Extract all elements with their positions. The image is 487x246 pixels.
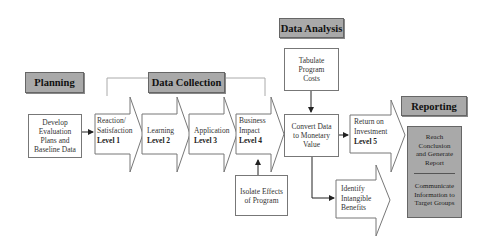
- text-line: Isolate Effects: [240, 187, 283, 196]
- text-line: and Generate: [416, 150, 453, 159]
- tabulate-costs-box: Tabulate Program Costs: [284, 48, 339, 91]
- text-line: Reaction/: [97, 116, 132, 126]
- text-line: Identify: [341, 184, 371, 194]
- text-line: Report: [425, 159, 444, 168]
- text-line: Application: [194, 126, 229, 136]
- reach-conclusion-section: Reach Conclusion and Generate Report: [408, 129, 461, 171]
- reporting-box: Reach Conclusion and Generate Report Com…: [407, 126, 462, 218]
- text-line: Conclusion: [419, 142, 451, 151]
- text-line: Program: [299, 65, 325, 74]
- communicate-section: Communicate Information to Target Groups: [408, 177, 461, 213]
- text-line: Information to: [414, 191, 455, 200]
- develop-evaluation-plans-box: Develop Evaluation Plans and Baseline Da…: [28, 114, 82, 158]
- level-4-label: Business Impact Level 4: [239, 116, 266, 146]
- text-line: Convert Data: [291, 122, 331, 131]
- text-line: Reach: [426, 133, 444, 142]
- convert-monetary-box: Convert Data to Monetary Value: [284, 114, 339, 157]
- text-line: to Monetary: [293, 131, 330, 140]
- level-1-label: Reaction/ Satisfaction Level 1: [97, 116, 132, 146]
- text-line: Return on: [354, 117, 387, 127]
- text-line: Learning: [147, 126, 174, 136]
- level-number: Level 1: [97, 136, 132, 146]
- text-line: Plans and: [41, 136, 70, 145]
- divider: [414, 173, 455, 174]
- phase-data-analysis: Data Analysis: [279, 18, 344, 38]
- text-line: Costs: [303, 74, 320, 83]
- text-line: Investment: [354, 127, 387, 137]
- text-line: Baseline Data: [34, 145, 76, 154]
- text-line: Benefits: [341, 203, 371, 213]
- text-line: Satisfaction: [97, 126, 132, 136]
- level-number: Level 3: [194, 136, 229, 146]
- text-line: Communicate: [415, 182, 454, 191]
- text-line: Value: [303, 140, 320, 149]
- text-line: of Program: [245, 196, 279, 205]
- text-line: Intangible: [341, 194, 371, 204]
- text-line: Evaluation: [39, 127, 72, 136]
- level-2-label: Learning Level 2: [147, 126, 174, 146]
- text-line: Business: [239, 116, 266, 126]
- text-line: Target Groups: [414, 199, 454, 208]
- phase-planning: Planning: [25, 72, 84, 93]
- level-5-label: Return on Investment Level 5: [354, 117, 387, 147]
- intangible-benefits-label: Identify Intangible Benefits: [341, 184, 371, 213]
- level-number: Level 2: [147, 136, 174, 146]
- level-number: Level 4: [239, 136, 266, 146]
- level-number: Level 5: [354, 137, 387, 147]
- text-line: Tabulate: [299, 56, 325, 65]
- phase-data-collection: Data Collection: [148, 72, 225, 93]
- isolate-effects-box: Isolate Effects of Program: [235, 175, 288, 216]
- text-line: Impact: [239, 126, 266, 136]
- level-3-label: Application Level 3: [194, 126, 229, 146]
- phase-reporting: Reporting: [401, 96, 467, 116]
- text-line: Develop: [42, 118, 67, 127]
